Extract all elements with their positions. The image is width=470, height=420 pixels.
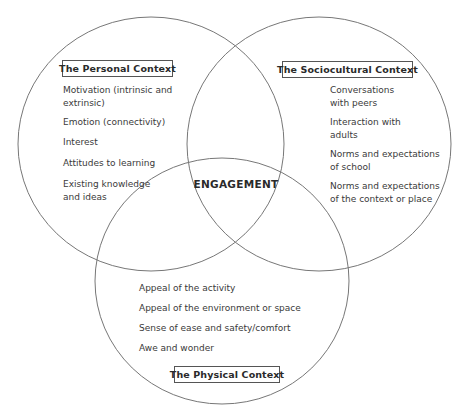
- personal-item-emotion: Emotion (connectivity): [63, 116, 165, 129]
- sociocultural-context-title: The Sociocultural Context: [282, 61, 413, 78]
- sociocultural-context-circle: [187, 17, 451, 271]
- sociocultural-item-conversations: Conversations with peers: [330, 84, 394, 109]
- personal-context-title: The Personal Context: [62, 60, 173, 77]
- personal-context-circle: [18, 17, 284, 271]
- personal-item-motivation: Motivation (intrinsic and extrinsic): [63, 84, 172, 109]
- physical-item-awe-wonder: Awe and wonder: [139, 342, 214, 355]
- personal-item-interest: Interest: [63, 136, 98, 149]
- physical-item-ease-safety: Sense of ease and safety/comfort: [139, 322, 290, 335]
- physical-item-appeal-environment: Appeal of the environment or space: [139, 302, 301, 315]
- personal-item-existing-knowledge: Existing knowledge and ideas: [63, 178, 150, 203]
- sociocultural-item-interaction: Interaction with adults: [330, 116, 401, 141]
- engagement-label: ENGAGEMENT: [193, 178, 278, 190]
- personal-item-attitudes: Attitudes to learning: [63, 157, 155, 170]
- sociocultural-item-norms-place: Norms and expectations of the context or…: [330, 180, 440, 205]
- sociocultural-item-norms-school: Norms and expectations of school: [330, 148, 440, 173]
- physical-item-appeal-activity: Appeal of the activity: [139, 282, 235, 295]
- physical-context-title: The Physical Context: [174, 366, 280, 383]
